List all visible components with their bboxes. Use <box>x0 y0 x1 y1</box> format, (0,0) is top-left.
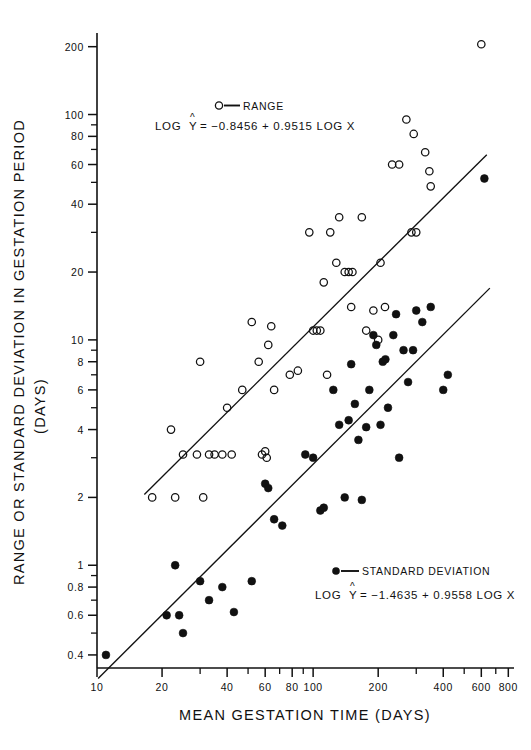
sd-equation-variable: Y <box>349 589 357 601</box>
data-point <box>309 454 317 462</box>
legend-range: RANGE LOG ^ Y = −0.8456 + 0.9515 LOG X <box>155 100 355 133</box>
data-point <box>102 651 110 659</box>
data-point <box>384 404 392 412</box>
data-point <box>306 229 313 236</box>
y-tick-label: 2 <box>78 491 84 503</box>
data-point <box>163 611 171 619</box>
data-point <box>355 436 363 444</box>
data-point <box>329 386 337 394</box>
data-point <box>381 303 388 310</box>
data-point <box>351 400 359 408</box>
data-point <box>219 451 226 458</box>
y-tick-label: 0.8 <box>68 581 84 593</box>
data-point <box>421 149 428 156</box>
range-data-points <box>148 41 485 502</box>
y-tick-label: 100 <box>65 109 84 121</box>
data-point <box>205 596 213 604</box>
x-axis-title: MEAN GESTATION TIME (DAYS) <box>179 707 431 723</box>
y-tick-label: 4 <box>78 424 84 436</box>
data-point <box>444 371 452 379</box>
x-axis-title-group: MEAN GESTATION TIME (DAYS) <box>179 707 431 723</box>
data-point <box>286 371 293 378</box>
data-point <box>388 161 395 168</box>
y-tick-label: 10 <box>71 334 84 346</box>
data-point <box>369 331 377 339</box>
data-point <box>410 130 417 137</box>
y-tick-label: 6 <box>78 384 84 396</box>
y-tick-label: 80 <box>71 130 84 142</box>
x-tick-label: 10 <box>91 681 104 693</box>
y-axis-ticks <box>88 47 97 655</box>
data-point <box>196 358 203 365</box>
y-tick-label: 40 <box>71 198 84 210</box>
y-tick-label: 20 <box>71 266 84 278</box>
data-point <box>404 378 412 386</box>
data-point <box>200 494 207 501</box>
data-point <box>341 494 349 502</box>
data-point <box>270 515 278 523</box>
y-axis-title-line2: (DAYS) <box>32 378 48 434</box>
y-tick-label: 0.6 <box>68 609 84 621</box>
data-point <box>426 168 433 175</box>
legend-sd: STANDARD DEVIATION LOG ^ Y = −1.4635 + 0… <box>315 565 515 601</box>
x-axis-ticks <box>97 668 508 677</box>
data-point <box>264 484 272 492</box>
data-point <box>409 346 417 354</box>
range-legend-label: RANGE <box>243 100 284 112</box>
data-point <box>327 229 334 236</box>
data-point <box>167 426 174 433</box>
x-tick-label: 800 <box>499 681 518 693</box>
data-point <box>228 451 235 458</box>
data-point <box>395 454 403 462</box>
figure-canvas: 0.40.60.8124681020406080100200 102040608… <box>0 0 531 750</box>
data-point <box>382 355 390 363</box>
data-point <box>248 318 255 325</box>
data-point <box>323 371 330 378</box>
data-point <box>427 183 434 190</box>
regression-line-range <box>144 155 486 495</box>
data-point <box>439 386 447 394</box>
scatter-plot: 0.40.60.8124681020406080100200 102040608… <box>0 0 531 750</box>
sd-equation-body: = −1.4635 + 0.9558 LOG X <box>360 589 515 601</box>
data-point <box>335 214 342 221</box>
data-point <box>480 175 488 183</box>
x-tick-label: 400 <box>434 681 453 693</box>
data-point <box>395 161 402 168</box>
data-point <box>403 116 410 123</box>
data-point <box>358 214 365 221</box>
x-axis-tick-labels: 1020406080100200400600800 <box>91 681 518 693</box>
data-point <box>179 629 187 637</box>
y-tick-label: 200 <box>65 41 84 53</box>
data-point <box>365 386 373 394</box>
data-point <box>335 421 343 429</box>
data-point <box>171 561 179 569</box>
y-axis-title-group: RANGE OR STANDARD DEVIATION IN GESTATION… <box>11 119 48 585</box>
data-point <box>333 259 340 266</box>
y-axis-tick-labels: 0.40.60.8124681020406080100200 <box>65 41 84 661</box>
data-point <box>239 386 246 393</box>
data-point <box>248 577 256 585</box>
data-point <box>171 494 178 501</box>
y-tick-label: 1 <box>78 559 84 571</box>
x-tick-label: 80 <box>286 681 299 693</box>
sd-equation-prefix: LOG <box>315 589 341 601</box>
data-point <box>218 583 226 591</box>
data-point <box>362 327 369 334</box>
data-point <box>223 404 230 411</box>
data-point <box>413 229 420 236</box>
data-point <box>392 310 400 318</box>
data-point <box>345 416 353 424</box>
data-point <box>301 451 309 459</box>
data-point <box>175 611 183 619</box>
data-point <box>211 451 218 458</box>
sd-data-points <box>102 175 488 659</box>
range-equation-body: = −0.8456 + 0.9515 LOG X <box>200 120 355 132</box>
data-point <box>347 303 354 310</box>
range-equation-variable: Y <box>189 120 197 132</box>
x-tick-label: 60 <box>259 681 272 693</box>
data-point <box>193 451 200 458</box>
data-point <box>377 421 385 429</box>
x-tick-label: 200 <box>369 681 388 693</box>
range-legend-marker-icon <box>215 102 222 109</box>
x-tick-label: 40 <box>221 681 234 693</box>
